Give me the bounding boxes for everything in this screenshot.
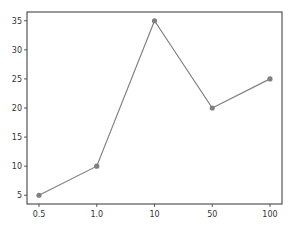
data-point-marker (94, 164, 99, 169)
data-point-marker (36, 193, 41, 198)
y-tick-label: 5 (17, 191, 22, 200)
y-tick-label: 30 (12, 46, 22, 55)
x-tick-label: 10 (149, 210, 159, 219)
data-point-marker (210, 105, 215, 110)
data-point-marker (267, 76, 272, 81)
plot-area (27, 12, 282, 204)
y-tick-label: 20 (12, 104, 22, 113)
x-axis: 0.51.01050100 (33, 204, 278, 219)
y-tick-label: 15 (12, 133, 22, 142)
y-tick-label: 25 (12, 75, 22, 84)
line-chart: 5101520253035 0.51.01050100 (0, 0, 290, 228)
y-axis: 5101520253035 (12, 17, 27, 201)
x-tick-label: 1.0 (90, 210, 103, 219)
x-tick-label: 0.5 (33, 210, 46, 219)
data-point-marker (152, 18, 157, 23)
y-tick-label: 35 (12, 17, 22, 26)
y-tick-label: 10 (12, 162, 22, 171)
x-tick-label: 50 (207, 210, 217, 219)
x-tick-label: 100 (262, 210, 277, 219)
